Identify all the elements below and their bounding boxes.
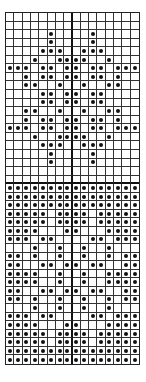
- stitch-dot-icon: [116, 109, 120, 113]
- grid-cell: [6, 313, 14, 322]
- grid-cell: [64, 313, 72, 322]
- grid-cell: [56, 236, 64, 245]
- grid-cell: [31, 218, 39, 227]
- grid-cell: [48, 270, 56, 279]
- grid-cell: [122, 210, 130, 219]
- grid-cell: [73, 278, 81, 287]
- stitch-dot-icon: [41, 349, 45, 353]
- grid-cell: [39, 244, 47, 253]
- stitch-dot-icon: [24, 220, 28, 224]
- stitch-dot-icon: [49, 143, 53, 147]
- stitch-dot-icon: [91, 49, 95, 53]
- grid-cell: [14, 270, 22, 279]
- grid-cell: [56, 227, 64, 236]
- grid-cell: [81, 304, 89, 313]
- grid-cell: [23, 278, 31, 287]
- stitch-dot-icon: [133, 195, 137, 199]
- stitch-dot-icon: [8, 289, 12, 293]
- stitch-dot-icon: [91, 100, 95, 104]
- stitch-dot-icon: [116, 237, 120, 241]
- stitch-dot-icon: [8, 272, 12, 276]
- grid-cell: [64, 133, 72, 142]
- grid-cell: [81, 313, 89, 322]
- grid-cell: [14, 218, 22, 227]
- stitch-chart-grid: [5, 12, 140, 365]
- stitch-dot-icon: [58, 203, 62, 207]
- grid-cell: [48, 304, 56, 313]
- grid-cell: [48, 99, 56, 108]
- stitch-dot-icon: [58, 212, 62, 216]
- stitch-dot-icon: [82, 58, 86, 62]
- grid-cell: [6, 296, 14, 305]
- stitch-dot-icon: [124, 212, 128, 216]
- grid-cell: [122, 167, 130, 176]
- grid-cell: [97, 261, 105, 270]
- grid-cell: [14, 159, 22, 168]
- grid-cell: [73, 133, 81, 142]
- grid-cell: [97, 278, 105, 287]
- grid-cell: [39, 313, 47, 322]
- stitch-dot-icon: [133, 297, 137, 301]
- grid-cell: [89, 124, 97, 133]
- stitch-dot-icon: [133, 289, 137, 293]
- grid-cell: [122, 261, 130, 270]
- grid-cell: [81, 73, 89, 82]
- grid-cell: [81, 210, 89, 219]
- stitch-dot-icon: [74, 263, 78, 267]
- grid-cell: [31, 176, 39, 185]
- stitch-dot-icon: [91, 152, 95, 156]
- stitch-dot-icon: [41, 289, 45, 293]
- stitch-dot-icon: [41, 332, 45, 336]
- stitch-dot-icon: [107, 280, 111, 284]
- grid-cell: [64, 193, 72, 202]
- grid-cell: [131, 64, 139, 73]
- grid-cell: [97, 236, 105, 245]
- grid-cell: [89, 261, 97, 270]
- grid-cell: [23, 261, 31, 270]
- stitch-dot-icon: [49, 314, 53, 318]
- grid-cell: [39, 141, 47, 150]
- grid-cell: [31, 47, 39, 56]
- stitch-dot-icon: [24, 195, 28, 199]
- grid-cell: [6, 73, 14, 82]
- grid-cell: [6, 210, 14, 219]
- grid-cell: [23, 124, 31, 133]
- stitch-dot-icon: [74, 220, 78, 224]
- stitch-dot-icon: [8, 186, 12, 190]
- grid-cell: [23, 313, 31, 322]
- stitch-dot-icon: [41, 195, 45, 199]
- stitch-dot-icon: [24, 314, 28, 318]
- grid-cell: [31, 338, 39, 347]
- grid-cell: [89, 184, 97, 193]
- grid-cell: [73, 39, 81, 48]
- grid-cell: [97, 116, 105, 125]
- stitch-dot-icon: [99, 49, 103, 53]
- grid-cell: [73, 338, 81, 347]
- grid-cell: [81, 355, 89, 364]
- stitch-dot-icon: [33, 135, 37, 139]
- grid-cell: [122, 296, 130, 305]
- grid-cell: [131, 141, 139, 150]
- grid-cell: [56, 107, 64, 116]
- grid-cell: [48, 193, 56, 202]
- stitch-dot-icon: [33, 195, 37, 199]
- grid-cell: [39, 321, 47, 330]
- stitch-dot-icon: [107, 254, 111, 258]
- grid-cell: [39, 90, 47, 99]
- stitch-dot-icon: [133, 212, 137, 216]
- grid-cell: [97, 56, 105, 65]
- stitch-dot-icon: [58, 135, 62, 139]
- grid-cell: [106, 330, 114, 339]
- grid-cell: [97, 270, 105, 279]
- grid-cell: [131, 56, 139, 65]
- stitch-dot-icon: [65, 186, 69, 190]
- stitch-dot-icon: [82, 220, 86, 224]
- grid-cell: [106, 141, 114, 150]
- stitch-dot-icon: [8, 195, 12, 199]
- grid-cell: [97, 167, 105, 176]
- stitch-dot-icon: [24, 237, 28, 241]
- grid-cell: [89, 278, 97, 287]
- grid-cell: [89, 39, 97, 48]
- grid-cell: [81, 321, 89, 330]
- stitch-dot-icon: [133, 220, 137, 224]
